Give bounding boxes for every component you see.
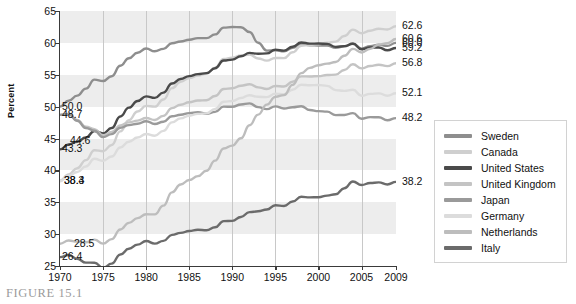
y-tick-label: 25 xyxy=(30,261,56,271)
right-value-label: 48.2 xyxy=(402,112,422,123)
x-tick-mark xyxy=(362,266,363,270)
x-tick-mark xyxy=(318,266,319,270)
x-tick-label: 1980 xyxy=(123,271,169,283)
x-tick-mark xyxy=(103,266,104,270)
legend-swatch xyxy=(444,166,472,169)
legend-label: Netherlands xyxy=(481,226,538,238)
legend-label: Germany xyxy=(481,210,524,222)
y-tick-mark xyxy=(55,234,60,235)
legend-swatch xyxy=(444,182,472,185)
left-value-label: 26.4 xyxy=(62,251,82,262)
y-tick-label: 55 xyxy=(30,70,56,80)
series-line-sweden xyxy=(60,27,396,107)
x-axis-line xyxy=(59,266,397,267)
plot-area xyxy=(60,11,396,266)
legend-item-united-states[interactable]: United States xyxy=(435,160,566,176)
y-tick-mark xyxy=(55,170,60,171)
legend-item-netherlands[interactable]: Netherlands xyxy=(435,224,566,240)
right-value-label: 38.2 xyxy=(402,176,422,187)
y-tick-label: 60 xyxy=(30,38,56,48)
left-value-label: 43.3 xyxy=(62,143,82,154)
y-tick-mark xyxy=(55,107,60,108)
legend-item-japan[interactable]: Japan xyxy=(435,192,566,208)
left-value-label: 28.5 xyxy=(74,238,94,249)
legend-items: SwedenCanadaUnited StatesUnited KingdomJ… xyxy=(435,128,566,256)
x-tick-label: 1970 xyxy=(37,271,83,283)
x-tick-label: 1990 xyxy=(209,271,255,283)
y-tick-label: 35 xyxy=(30,197,56,207)
right-value-label: 59.2 xyxy=(402,42,422,53)
x-tick-mark xyxy=(60,266,61,270)
legend-swatch xyxy=(444,150,472,153)
figure-caption: FIGURE 15.1 xyxy=(6,286,83,301)
chart-plot-wrapper: Percent 253035404550556065 1970197519801… xyxy=(0,0,430,285)
y-tick-label: 40 xyxy=(30,165,56,175)
legend-label: United States xyxy=(481,162,544,174)
y-tick-label: 65 xyxy=(30,6,56,16)
legend-item-sweden[interactable]: Sweden xyxy=(435,128,566,144)
y-tick-mark xyxy=(55,75,60,76)
legend-item-italy[interactable]: Italy xyxy=(435,240,566,256)
x-tick-mark xyxy=(232,266,233,270)
y-tick-label: 45 xyxy=(30,134,56,144)
legend-swatch xyxy=(444,246,472,249)
legend-item-canada[interactable]: Canada xyxy=(435,144,566,160)
x-tick-label: 2000 xyxy=(295,271,341,283)
legend-swatch xyxy=(444,230,472,233)
legend-swatch xyxy=(444,214,472,217)
x-tick-mark xyxy=(275,266,276,270)
legend-label: Sweden xyxy=(481,130,519,142)
y-tick-mark xyxy=(55,202,60,203)
y-tick-mark xyxy=(55,43,60,44)
legend-label: United Kingdom xyxy=(481,178,556,190)
legend-item-united-kingdom[interactable]: United Kingdom xyxy=(435,176,566,192)
x-tick-mark xyxy=(189,266,190,270)
y-tick-mark xyxy=(55,11,60,12)
legend-label: Canada xyxy=(481,146,518,158)
series-lines xyxy=(60,11,396,266)
x-tick-label: 1985 xyxy=(166,271,212,283)
right-value-label: 52.1 xyxy=(402,87,422,98)
y-tick-mark xyxy=(55,139,60,140)
series-line-united-kingdom xyxy=(60,63,396,135)
legend: SwedenCanadaUnited StatesUnited KingdomJ… xyxy=(434,120,567,263)
legend-label: Italy xyxy=(481,242,500,254)
x-tick-label: 1995 xyxy=(252,271,298,283)
x-tick-mark xyxy=(396,266,397,270)
y-tick-label: 30 xyxy=(30,229,56,239)
y-axis-tick-labels: 253035404550556065 xyxy=(28,0,56,285)
legend-item-germany[interactable]: Germany xyxy=(435,208,566,224)
right-value-label: 62.6 xyxy=(402,20,422,31)
figure-container: Percent 253035404550556065 1970197519801… xyxy=(0,0,576,304)
y-axis-title: Percent xyxy=(6,84,16,118)
x-tick-label: 1975 xyxy=(80,271,126,283)
left-value-label: 48.7 xyxy=(62,109,82,120)
legend-label: Japan xyxy=(481,194,510,206)
left-value-label: 38.3 xyxy=(64,175,84,186)
x-tick-mark xyxy=(146,266,147,270)
legend-swatch xyxy=(444,198,472,201)
legend-swatch xyxy=(444,134,472,137)
y-tick-label: 50 xyxy=(30,102,56,112)
series-line-italy xyxy=(60,181,396,266)
right-value-label: 56.8 xyxy=(402,57,422,68)
x-tick-label: 2009 xyxy=(373,271,419,283)
